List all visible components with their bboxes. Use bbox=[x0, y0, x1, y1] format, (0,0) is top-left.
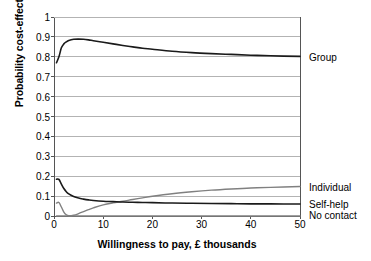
series-label-self-help: Self-help bbox=[309, 198, 348, 209]
cost-effectiveness-acceptability-chart: Probability cost-effective 00.10.20.30.4… bbox=[0, 0, 371, 261]
series-label-group: Group bbox=[309, 51, 337, 62]
series-line-group bbox=[56, 39, 300, 63]
series-line-self-help bbox=[56, 179, 300, 204]
series-label-no-contact: No contact bbox=[309, 210, 357, 221]
plot-area bbox=[0, 0, 371, 261]
series-label-individual: Individual bbox=[309, 181, 351, 192]
